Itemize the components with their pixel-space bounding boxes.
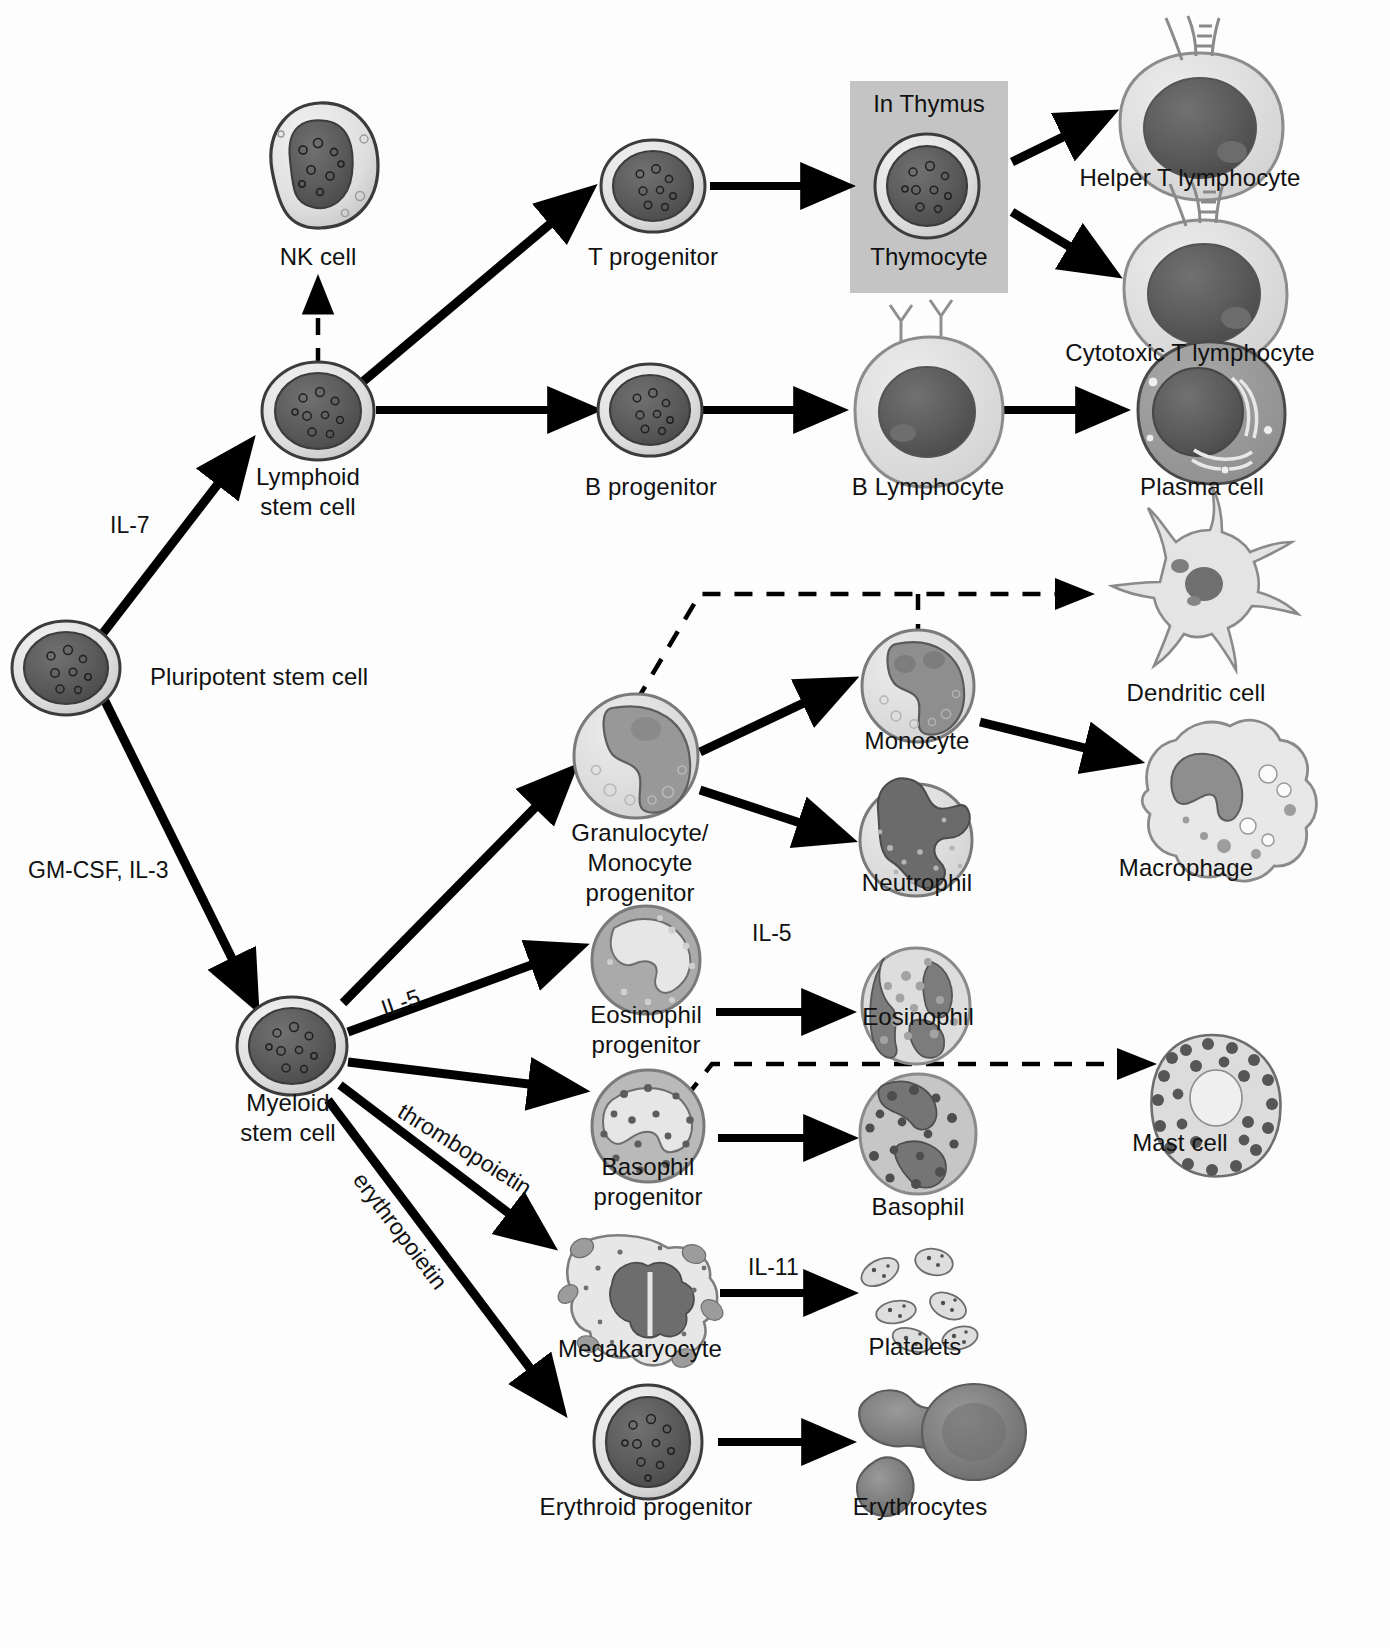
label-basophil: Basophil	[872, 1192, 965, 1222]
edge-gmprog-monocyte	[700, 682, 848, 752]
label-eosinophil: Eosinophil	[862, 1002, 974, 1032]
label-lymphoid-stem-cell: Lymphoidstem cell	[256, 462, 360, 522]
cell-erythroid-progenitor	[594, 1385, 702, 1499]
label-macrophage: Macrophage	[1119, 853, 1253, 883]
edge-pluripotent-lymphoid	[100, 445, 248, 637]
edge-myeloid-eosprog	[348, 948, 578, 1032]
cell-pluripotent-stem	[12, 621, 120, 715]
label-pluripotent-stem-cell: Pluripotent stem cell	[150, 662, 368, 692]
label-line-2: stem cell	[240, 1119, 336, 1146]
label-t-progenitor: T progenitor	[588, 242, 718, 272]
cell-nk	[271, 103, 378, 228]
edge-thymocyte-cytotoxicT	[1012, 212, 1112, 272]
edge-myeloid-basoprog	[348, 1062, 578, 1090]
edge-myeloid-gmprog	[343, 772, 570, 1003]
label-cytotoxic-t-lymphocyte: Cytotoxic T lymphocyte	[1065, 338, 1314, 368]
cytokine-il11: IL-11	[748, 1254, 799, 1281]
hematopoiesis-diagram: NK cell Lymphoidstem cell T progenitor B…	[0, 0, 1390, 1648]
label-line-2: progenitor	[593, 1183, 702, 1210]
cell-t-progenitor	[601, 140, 705, 232]
cytokine-il5-eosinophil: IL-5	[752, 920, 792, 947]
cytokine-thrombopoietin: thrombopoietin	[393, 1098, 536, 1202]
edge-basoprog-mast	[686, 1064, 1148, 1097]
label-in-thymus: In Thymus	[873, 90, 985, 118]
label-line-3: progenitor	[585, 879, 694, 906]
cell-gm-progenitor	[574, 694, 698, 818]
edge-gmprog-dendritic	[636, 594, 1086, 702]
label-line-1: Myeloid	[246, 1089, 329, 1116]
edge-pluripotent-myeloid	[103, 697, 254, 1003]
label-b-progenitor: B progenitor	[585, 472, 717, 502]
label-line-1: Lymphoid	[256, 463, 360, 490]
label-line-1: Basophil	[602, 1153, 695, 1180]
label-platelets: Platelets	[869, 1332, 962, 1362]
cell-lymphoid-stem	[262, 362, 374, 460]
label-nk-cell: NK cell	[280, 242, 357, 272]
label-line-1: Eosinophil	[590, 1001, 702, 1028]
label-dendritic-cell: Dendritic cell	[1127, 678, 1266, 708]
label-eosinophil-progenitor: Eosinophilprogenitor	[590, 1000, 702, 1060]
label-erythroid-progenitor: Erythroid progenitor	[540, 1492, 753, 1522]
cell-b-lymphocyte	[855, 300, 1003, 487]
cell-dendritic	[1112, 486, 1298, 670]
label-line-2: Monocyte	[588, 849, 693, 876]
label-line-2: progenitor	[591, 1031, 700, 1058]
label-helper-t-lymphocyte: Helper T lymphocyte	[1079, 163, 1300, 193]
edge-myeloid-megakaryo	[340, 1085, 548, 1243]
label-megakaryocyte: Megakaryocyte	[558, 1334, 722, 1364]
edge-lymphoid-tprog	[353, 192, 588, 390]
cell-b-progenitor	[598, 364, 702, 456]
label-b-lymphocyte: B Lymphocyte	[852, 472, 1004, 502]
cytokine-il7: IL-7	[110, 512, 150, 539]
cytokine-erythropoietin: erythropoietin	[347, 1167, 452, 1295]
label-thymocyte: Thymocyte	[870, 243, 987, 271]
edge-thymocyte-helperT	[1012, 115, 1108, 162]
label-myeloid-stem-cell: Myeloidstem cell	[240, 1088, 336, 1148]
label-line-2: stem cell	[260, 493, 356, 520]
label-basophil-progenitor: Basophilprogenitor	[593, 1152, 702, 1212]
cell-eosinophil-progenitor	[592, 906, 700, 1014]
edge-gmprog-neutrophil	[700, 790, 846, 838]
cytokine-il5-myeloid: IL-5	[378, 984, 424, 1022]
label-gm-progenitor: Granulocyte/Monocyteprogenitor	[571, 818, 708, 908]
label-monocyte: Monocyte	[865, 726, 970, 756]
cytokine-gmcsf-il3: GM-CSF, IL-3	[28, 857, 169, 884]
edge-monocyte-macrophage	[980, 722, 1133, 760]
label-plasma-cell: Plasma cell	[1140, 472, 1264, 502]
label-line-1: Granulocyte/	[571, 819, 708, 846]
cell-basophil	[860, 1074, 976, 1194]
label-erythrocytes: Erythrocytes	[853, 1492, 988, 1522]
label-neutrophil: Neutrophil	[862, 868, 972, 898]
label-mast-cell: Mast cell	[1132, 1128, 1228, 1158]
cell-myeloid-stem	[237, 997, 347, 1095]
